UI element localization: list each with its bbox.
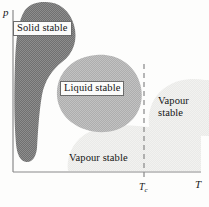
region-label-vapour-right: Vapour stable bbox=[158, 95, 189, 119]
region-label-vapour-right-line1: Vapour bbox=[158, 95, 189, 107]
region-label-solid: Solid stable bbox=[13, 21, 72, 36]
y-axis-label: p bbox=[3, 6, 9, 18]
region-label-liquid: Liquid stable bbox=[60, 81, 124, 96]
region-label-vapour-bottom: Vapour stable bbox=[69, 152, 128, 164]
x-axis-label: T bbox=[195, 178, 201, 190]
phase-diagram-figure: p T Tc Solid stable Liquid stable Vapour… bbox=[0, 0, 209, 207]
critical-temperature-subscript: c bbox=[145, 186, 148, 194]
critical-temperature-tick-label: Tc bbox=[139, 181, 148, 194]
region-label-vapour-right-line2: stable bbox=[158, 107, 189, 119]
